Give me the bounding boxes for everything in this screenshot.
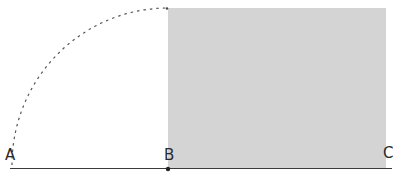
point-label-b: B	[164, 148, 174, 163]
point-label-c: C	[383, 146, 393, 161]
dashed-arc	[12, 8, 168, 165]
point-label-a: A	[5, 148, 15, 163]
point-b-dot	[166, 167, 170, 171]
shaded-rectangle	[168, 8, 386, 168]
arc-end-dot	[166, 7, 168, 9]
